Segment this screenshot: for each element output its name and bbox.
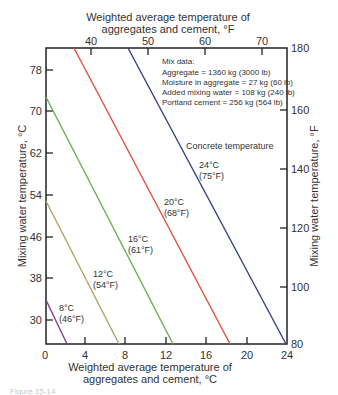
- concrete-temperature-label: Concrete temperature: [186, 141, 274, 151]
- svg-text:60: 60: [199, 35, 211, 47]
- svg-text:50: 50: [142, 35, 154, 47]
- label-61f: (61°F): [128, 245, 153, 255]
- svg-text:70: 70: [30, 105, 42, 117]
- svg-text:180: 180: [291, 42, 309, 54]
- label-16c: 16°C: [128, 234, 149, 244]
- svg-text:Portland cement = 256 kg (564: Portland cement = 256 kg (564 lb): [162, 98, 283, 107]
- bottom-axis-title-line1: Weighted average temperature of: [68, 361, 233, 373]
- label-24c: 24°C: [199, 160, 220, 170]
- svg-text:Aggregate = 1360 kg (3000 lb): Aggregate = 1360 kg (3000 lb): [162, 68, 271, 77]
- svg-text:4: 4: [82, 349, 88, 361]
- svg-text:Moisture in aggregate = 27 kg: Moisture in aggregate = 27 kg (60 lb): [162, 78, 293, 87]
- svg-text:30: 30: [30, 314, 42, 326]
- svg-text:62: 62: [30, 147, 42, 159]
- svg-text:100: 100: [291, 281, 309, 293]
- svg-text:46: 46: [30, 231, 42, 243]
- svg-text:Added mixing water = 108 kg (2: Added mixing water = 108 kg (240 lb): [162, 88, 295, 97]
- top-axis-title-line1: Weighted average temperature of: [86, 11, 251, 23]
- svg-text:16: 16: [200, 349, 212, 361]
- chart: Weighted average temperature of aggregat…: [0, 0, 338, 395]
- label-75f: (75°F): [199, 171, 224, 181]
- svg-text:8: 8: [122, 349, 128, 361]
- figure-caption: Figure 15-14: [10, 387, 56, 395]
- right-axis-title: Mixing water temperature, °F: [308, 125, 320, 267]
- svg-text:40: 40: [85, 35, 97, 47]
- svg-text:12: 12: [160, 349, 172, 361]
- left-axis-title: Mixing water temperature, °C: [16, 125, 28, 268]
- svg-text:24: 24: [281, 349, 293, 361]
- svg-text:70: 70: [256, 35, 268, 47]
- svg-text:38: 38: [30, 272, 42, 284]
- label-68f: (68°F): [164, 208, 189, 218]
- svg-text:78: 78: [30, 64, 42, 76]
- svg-text:160: 160: [291, 104, 309, 116]
- svg-text:20: 20: [241, 349, 253, 361]
- label-54f: (54°F): [93, 280, 118, 290]
- bottom-axis-ticks: 0 4 8 12 16 20 24: [42, 337, 293, 361]
- top-axis-title-line2: aggregates and cement, °F: [102, 23, 235, 35]
- svg-text:54: 54: [30, 189, 42, 201]
- svg-text:120: 120: [291, 222, 309, 234]
- svg-text:Mix data:: Mix data:: [162, 57, 194, 66]
- bottom-axis-title-line2: aggregates and cement, °C: [83, 373, 217, 385]
- svg-text:140: 140: [291, 163, 309, 175]
- top-axis-ticks: 40 50 60 70: [85, 35, 268, 55]
- label-12c: 12°C: [93, 269, 114, 279]
- svg-text:0: 0: [42, 349, 48, 361]
- label-46f: (46°F): [59, 314, 84, 324]
- label-8c: 8°C: [59, 303, 75, 313]
- label-20c: 20°C: [164, 197, 185, 207]
- mix-data-note: Mix data: Aggregate = 1360 kg (3000 lb) …: [162, 57, 295, 107]
